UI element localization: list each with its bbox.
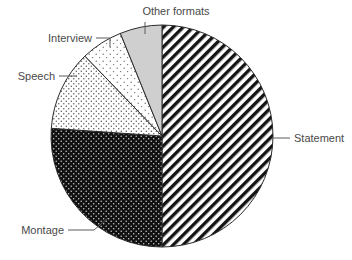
pie-label-interview: Interview xyxy=(48,32,92,44)
pie-chart-figure: Other formats Interview Speech Montage S… xyxy=(0,0,352,260)
pie-label-statement: Statement xyxy=(294,132,344,144)
pie-label-other-formats: Other formats xyxy=(142,5,210,17)
pie-slice-statement[interactable] xyxy=(162,25,273,247)
pie-slices xyxy=(51,25,273,247)
pie-label-speech: Speech xyxy=(18,70,55,82)
pie-slice-montage[interactable] xyxy=(51,128,162,247)
pie-label-montage: Montage xyxy=(21,224,64,236)
pie-chart-canvas: Other formats Interview Speech Montage S… xyxy=(0,0,352,260)
